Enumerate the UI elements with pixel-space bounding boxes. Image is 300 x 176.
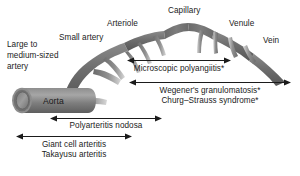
label-takayusu-arteritis: Takayusu arteritis xyxy=(17,150,131,160)
arrow-wegeners-churg-strauss xyxy=(129,80,291,86)
label-polyarteritis-nodosa: Polyarteritis nodosa xyxy=(51,121,161,131)
label-vein: Vein xyxy=(263,36,279,46)
label-venule: Venule xyxy=(229,19,254,29)
label-capillary: Capillary xyxy=(168,6,200,16)
label-giant-cell-arteritis: Giant cell arteritis xyxy=(17,140,131,150)
label-aorta: Aorta xyxy=(43,96,64,106)
label-large-medium-artery: Large to medium-sized artery xyxy=(7,39,67,72)
arrow-giant-cell-takayusu xyxy=(16,134,132,140)
label-microscopic-polyangiitis: Microscopic polyangiitis* xyxy=(128,64,230,74)
label-arteriole: Arteriole xyxy=(107,19,138,29)
label-small-artery: Small artery xyxy=(59,33,103,43)
label-wegeners-granulomatosis: Wegener's granulomatosis* xyxy=(130,86,290,96)
label-churg-strauss-syndrome: Churg–Strauss syndrome* xyxy=(130,96,290,106)
vasculitis-vessel-diagram: Large to medium-sized artery Small arter… xyxy=(0,0,300,176)
arrow-microscopic-polyangiitis xyxy=(127,58,231,64)
